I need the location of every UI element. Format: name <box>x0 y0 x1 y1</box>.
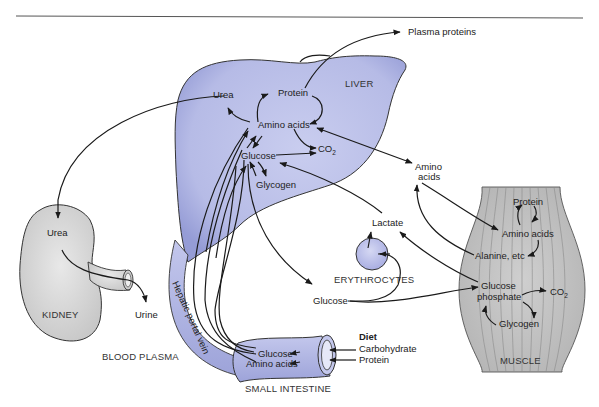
muscle-protein-label: Protein <box>513 196 543 207</box>
muscle-amino-acids-label: Amino acids <box>502 228 554 239</box>
diet-carbohydrate-label: Carbohydrate <box>359 343 417 354</box>
lactate-label: Lactate <box>372 217 403 228</box>
blood-plasma-label: BLOOD PLASMA <box>102 351 179 362</box>
hepatic-portal-vein <box>169 240 240 376</box>
plasma-proteins-label: Plasma proteins <box>408 26 476 37</box>
liver-protein-label: Protein <box>278 87 308 98</box>
diet-title: Diet <box>359 331 378 342</box>
blood-amino-acids-label-2: acids <box>418 171 440 182</box>
liver-urea-label: Urea <box>213 89 234 100</box>
liver-label: LIVER <box>345 78 373 89</box>
muscle-glycogen-label: Glycogen <box>499 318 539 329</box>
top-rule <box>16 16 583 18</box>
liver-glucose-label: Glucose <box>241 150 276 161</box>
small-intestine-label: SMALL INTESTINE <box>245 383 331 394</box>
kidney-label: KIDNEY <box>42 309 79 320</box>
muscle-glucose-phosphate-label-1: Glucose <box>481 280 516 291</box>
blood-glucose-label: Glucose <box>313 295 348 306</box>
erythrocytes-label: ERYTHROCYTES <box>334 274 414 285</box>
liver-glycogen-label: Glycogen <box>256 179 296 190</box>
metabolism-diagram: Plasma proteins LIVER Urea Protein Amino… <box>0 0 599 407</box>
muscle-label: MUSCLE <box>500 355 541 366</box>
muscle-glucose-phosphate-label-2: phosphate <box>477 291 521 302</box>
liver-amino-acids-label: Amino acids <box>258 119 310 130</box>
intestine-amino-acids-label: Amino acids <box>246 358 298 369</box>
diet-protein-label: Protein <box>359 354 389 365</box>
urine-label: Urine <box>135 309 158 320</box>
muscle-alanine-label: Alanine, etc <box>475 250 525 261</box>
kidney-urea-label: Urea <box>47 227 68 238</box>
